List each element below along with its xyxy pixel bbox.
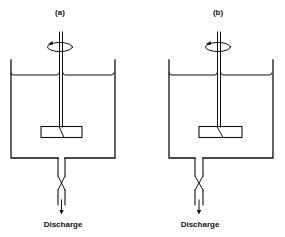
panel-b: (b) (169, 8, 273, 229)
outlet-pipe-b (195, 158, 203, 176)
impeller-b (199, 127, 242, 138)
valve-icon-b (195, 176, 203, 190)
shaft-b (218, 32, 221, 127)
outlet-pipe-a (58, 158, 65, 176)
discharge-label-a: Discharge (44, 220, 83, 229)
panel-b-label: (b) (213, 8, 224, 17)
shaft-a (60, 32, 63, 127)
panel-a-label: (a) (55, 8, 65, 17)
diagram-canvas: (a) (0, 0, 285, 237)
impeller-a (41, 127, 82, 138)
discharge-label-b: Discharge (181, 220, 220, 229)
valve-icon-a (58, 176, 65, 190)
panel-a: (a) (11, 8, 115, 229)
